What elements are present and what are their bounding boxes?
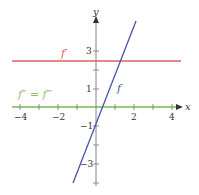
x-axis (12, 104, 183, 110)
f-label: f (116, 82, 123, 95)
y-tick-label: −3 (80, 159, 94, 169)
x-tick-label: −2 (52, 112, 65, 122)
function-graph: x y −4 −2 2 4 3 1 −1 −3 f′ f f″ = f‴ (0, 0, 199, 195)
y-tick-label: 3 (86, 46, 92, 56)
x-tick-label: 4 (169, 112, 175, 122)
y-axis-arrow-icon (93, 16, 99, 23)
y-tick-label: −1 (80, 121, 93, 131)
x-axis-arrow-icon (176, 104, 183, 110)
x-tick-label: 2 (131, 112, 137, 122)
x-axis-label: x (185, 101, 191, 112)
x-tick-label: −4 (14, 112, 28, 122)
f-prime-label: f′ (60, 47, 68, 60)
f-second-third-label: f″ = f‴ (17, 88, 52, 101)
y-tick-label: 1 (86, 84, 92, 94)
y-axis-label: y (92, 6, 99, 17)
y-axis (93, 16, 99, 186)
